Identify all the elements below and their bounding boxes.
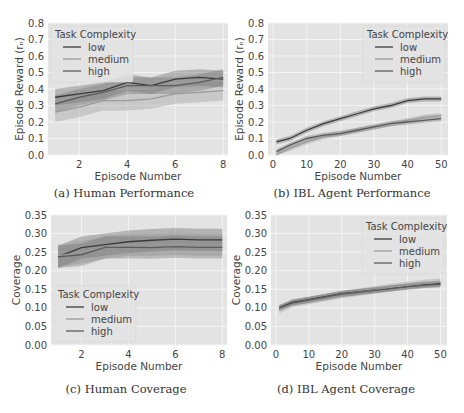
y-tick-label: 0.4 <box>28 84 44 95</box>
chart-panel-b: 0.00.10.20.30.40.50.60.70.801020304050Ep… <box>233 18 448 183</box>
y-tick-label: 0.20 <box>25 265 47 276</box>
x-axis-label: Episode Number <box>315 170 402 182</box>
legend-label-low: low <box>400 42 417 53</box>
legend-label-medium: medium <box>400 54 441 65</box>
legend: Task Complexitylowmediumhigh <box>363 26 448 82</box>
caption-a: (a) Human Performance <box>54 186 194 200</box>
chart-panel-d: 0.000.050.100.150.200.250.300.3501020304… <box>230 210 447 373</box>
y-axis-label: Coverage <box>10 255 22 305</box>
x-tick-label: 2 <box>78 349 84 360</box>
x-tick-label: 40 <box>401 349 414 360</box>
chart-panel-c: 0.000.050.100.150.200.250.300.352468Epis… <box>10 210 227 373</box>
y-tick-label: 0.05 <box>25 321 47 332</box>
y-tick-label: 0.6 <box>248 51 264 62</box>
y-tick-label: 0.00 <box>25 340 47 351</box>
x-tick-label: 8 <box>219 349 225 360</box>
x-tick-label: 6 <box>172 349 178 360</box>
caption-c: (c) Human Coverage <box>66 382 187 396</box>
x-axis-label: Episode Number <box>95 170 182 182</box>
caption-d: (d) IBL Agent Coverage <box>277 382 415 396</box>
x-tick-label: 2 <box>76 159 82 170</box>
y-tick-label: 0.2 <box>248 117 264 128</box>
y-tick-label: 0.0 <box>28 150 44 161</box>
x-tick-label: 40 <box>401 159 414 170</box>
x-tick-label: 4 <box>125 349 131 360</box>
x-tick-label: 20 <box>335 349 348 360</box>
legend: Task Complexitylowmediumhigh <box>54 286 139 342</box>
legend-label-high: high <box>399 258 421 269</box>
caption-b: (b) IBL Agent Performance <box>273 186 430 200</box>
y-tick-label: 0.15 <box>245 284 267 295</box>
x-tick-label: 30 <box>368 349 381 360</box>
x-tick-label: 20 <box>334 159 347 170</box>
x-tick-label: 50 <box>434 349 447 360</box>
y-tick-label: 0.20 <box>245 265 267 276</box>
x-tick-label: 50 <box>435 159 448 170</box>
y-tick-label: 0.6 <box>28 51 44 62</box>
y-tick-label: 0.00 <box>245 340 267 351</box>
x-tick-label: 8 <box>220 159 226 170</box>
y-tick-label: 0.10 <box>245 302 267 313</box>
legend-label-low: low <box>399 234 416 245</box>
legend-title: Task Complexity <box>366 29 448 40</box>
x-tick-label: 30 <box>368 159 381 170</box>
y-tick-label: 0.05 <box>245 321 267 332</box>
y-tick-label: 0.5 <box>28 67 44 78</box>
legend-label-medium: medium <box>399 246 440 257</box>
y-tick-label: 0.1 <box>28 133 44 144</box>
x-tick-label: 0 <box>273 349 279 360</box>
y-tick-label: 0.30 <box>25 228 47 239</box>
legend-title: Task Complexity <box>54 29 136 40</box>
y-tick-label: 0.8 <box>248 18 264 29</box>
y-tick-label: 0.2 <box>28 117 44 128</box>
y-axis-label: Episode Reward (rₙ) <box>233 37 245 141</box>
y-tick-label: 0.35 <box>245 210 267 221</box>
x-tick-label: 10 <box>300 159 313 170</box>
y-tick-label: 0.1 <box>248 133 264 144</box>
legend-label-high: high <box>88 66 110 77</box>
x-axis-label: Episode Number <box>96 360 183 372</box>
figure-grid: 0.00.10.20.30.40.50.60.70.82468Episode N… <box>0 0 464 413</box>
x-tick-label: 0 <box>270 159 276 170</box>
legend: Task Complexitylowmediumhigh <box>51 26 136 82</box>
x-axis-label: Episode Number <box>316 360 403 372</box>
legend-label-low: low <box>88 42 105 53</box>
y-tick-label: 0.7 <box>28 34 44 45</box>
y-tick-label: 0.30 <box>245 228 267 239</box>
legend-label-low: low <box>91 302 108 313</box>
legend-label-high: high <box>91 326 113 337</box>
y-tick-label: 0.7 <box>248 34 264 45</box>
chart-panel-a: 0.00.10.20.30.40.50.60.70.82468Episode N… <box>13 18 228 183</box>
y-tick-label: 0.4 <box>248 84 264 95</box>
y-tick-label: 0.3 <box>28 100 44 111</box>
x-tick-label: 4 <box>124 159 130 170</box>
y-tick-label: 0.25 <box>25 247 47 258</box>
x-tick-label: 10 <box>302 349 315 360</box>
legend-label-medium: medium <box>91 314 132 325</box>
legend-title: Task Complexity <box>57 289 139 300</box>
y-axis-label: Coverage <box>230 255 242 305</box>
y-tick-label: 0.15 <box>25 284 47 295</box>
x-tick-label: 6 <box>172 159 178 170</box>
y-tick-label: 0.3 <box>248 100 264 111</box>
y-tick-label: 0.0 <box>248 150 264 161</box>
y-axis-label: Episode Reward (rₙ) <box>13 37 25 141</box>
y-tick-label: 0.10 <box>25 302 47 313</box>
legend-title: Task Complexity <box>365 221 447 232</box>
legend-label-medium: medium <box>88 54 129 65</box>
y-tick-label: 0.5 <box>248 67 264 78</box>
legend-label-high: high <box>400 66 422 77</box>
y-tick-label: 0.25 <box>245 247 267 258</box>
legend: Task Complexitylowmediumhigh <box>362 218 447 274</box>
y-tick-label: 0.35 <box>25 210 47 221</box>
y-tick-label: 0.8 <box>28 18 44 29</box>
